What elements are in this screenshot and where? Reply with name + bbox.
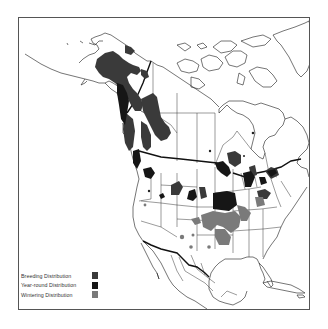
map-legend: Breeding Distribution Year-round Distrib…	[21, 271, 98, 300]
range-map	[19, 18, 310, 310]
legend-item-wintering: Wintering Distribution	[21, 290, 98, 299]
legend-label: Wintering Distribution	[21, 292, 92, 298]
map-frame	[18, 17, 310, 310]
breeding-swatch	[92, 272, 98, 279]
legend-label: Breeding Distribution	[21, 273, 92, 279]
year-round-swatch	[92, 282, 98, 289]
internal-borders	[139, 63, 291, 297]
legend-label: Year-round Distribution	[21, 282, 92, 288]
wintering-range	[144, 197, 265, 249]
legend-item-year-round: Year-round Distribution	[21, 281, 98, 290]
wintering-swatch	[92, 291, 98, 298]
legend-item-breeding: Breeding Distribution	[21, 271, 98, 280]
